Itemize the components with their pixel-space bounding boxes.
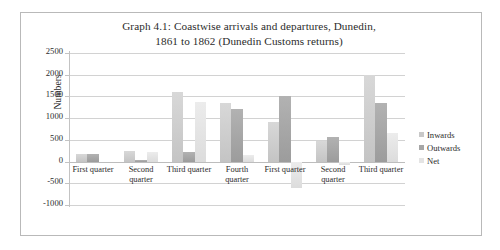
bar-outwards xyxy=(279,96,291,161)
x-axis-label: First quarter xyxy=(261,165,309,176)
y-tick-label: 2000 xyxy=(29,68,63,78)
legend-swatch-icon xyxy=(419,145,424,150)
y-tick-label: 1000 xyxy=(29,111,63,121)
legend-item-net[interactable]: Net xyxy=(419,154,489,167)
bar-inwards xyxy=(268,122,280,161)
y-tick-label: 2500 xyxy=(29,46,63,56)
x-axis-label: Second quarter xyxy=(309,165,357,186)
bar-net xyxy=(243,155,255,162)
y-tick-label: -500 xyxy=(29,176,63,186)
legend-label: Net xyxy=(427,156,439,166)
bar-outwards xyxy=(87,154,99,161)
bar-net xyxy=(195,102,207,161)
x-axis-category-labels: First quarterSecond quarterThird quarter… xyxy=(69,162,405,202)
legend-label: Inwards xyxy=(427,130,455,140)
legend-item-inwards[interactable]: Inwards xyxy=(419,128,489,141)
chart-title-line-1: Graph 4.1: Coastwise arrivals and depart… xyxy=(49,19,449,34)
chart-figure: Graph 4.1: Coastwise arrivals and depart… xyxy=(20,12,482,236)
y-tick-label: 500 xyxy=(29,133,63,143)
bar-outwards xyxy=(231,109,243,161)
bar-inwards xyxy=(220,103,232,162)
chart-title: Graph 4.1: Coastwise arrivals and depart… xyxy=(49,19,449,49)
bar-inwards xyxy=(316,141,328,162)
bar-inwards xyxy=(76,154,88,161)
legend-label: Outwards xyxy=(427,143,460,153)
bar-inwards xyxy=(124,151,136,162)
x-axis-label: Third quarter xyxy=(357,165,405,176)
bar-net xyxy=(147,152,159,162)
bar-inwards xyxy=(364,75,376,162)
chart-title-line-2: 1861 to 1862 (Dunedin Customs returns) xyxy=(49,34,449,49)
chart-legend: InwardsOutwardsNet xyxy=(419,128,489,167)
bar-outwards xyxy=(375,103,387,162)
bar-inwards xyxy=(172,92,184,161)
bar-outwards xyxy=(183,152,195,162)
x-axis-label: Third quarter xyxy=(165,165,213,176)
legend-swatch-icon xyxy=(419,158,424,163)
y-tick-label: -1000 xyxy=(29,198,63,208)
bar-outwards xyxy=(327,137,339,161)
x-axis-label: Fourth quarter xyxy=(213,165,261,186)
y-tick-label: 1500 xyxy=(29,89,63,99)
legend-swatch-icon xyxy=(419,132,424,137)
y-tick-label: 0 xyxy=(29,155,63,165)
x-axis-label: Second quarter xyxy=(117,165,165,186)
bar-net xyxy=(387,133,399,161)
x-axis-label: First quarter xyxy=(69,165,117,176)
legend-item-outwards[interactable]: Outwards xyxy=(419,141,489,154)
gridline xyxy=(69,205,405,206)
